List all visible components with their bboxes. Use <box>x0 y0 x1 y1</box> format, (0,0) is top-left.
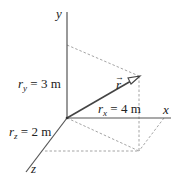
vector-diagram: y x z r → ry = 3 m rx = 4 m rz = 2 m <box>0 0 180 183</box>
rx-label: rx = 4 m <box>98 101 141 118</box>
z-axis-label: z <box>30 161 36 176</box>
dashed-guides <box>45 45 164 151</box>
dashed-y-to-tip <box>67 45 139 76</box>
origin-point <box>66 117 69 120</box>
y-axis-label: y <box>54 6 62 21</box>
x-axis-label: x <box>162 102 169 117</box>
rz-label: rz = 2 m <box>9 124 51 141</box>
dashed-origin-to-base <box>67 118 139 151</box>
ry-label: ry = 3 m <box>18 76 61 93</box>
vector-arrow-accent: → <box>115 72 124 82</box>
dashed-x-to-base <box>139 118 164 151</box>
arrowhead-icon <box>128 76 140 84</box>
